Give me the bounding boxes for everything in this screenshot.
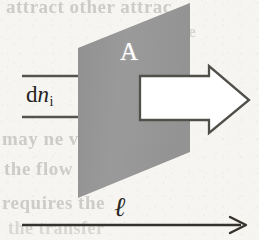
flux-label: dni <box>26 82 53 110</box>
area-label: A <box>120 38 138 66</box>
flux-label-n: n <box>38 82 50 107</box>
figure-container: attract other attrac om be may ne vita t… <box>0 0 259 240</box>
diagram-svg <box>0 0 259 240</box>
length-axis-arrow <box>22 217 246 233</box>
flux-label-subscript: i <box>50 94 54 109</box>
flux-label-d: d <box>26 82 38 107</box>
length-label: ℓ <box>114 192 125 223</box>
